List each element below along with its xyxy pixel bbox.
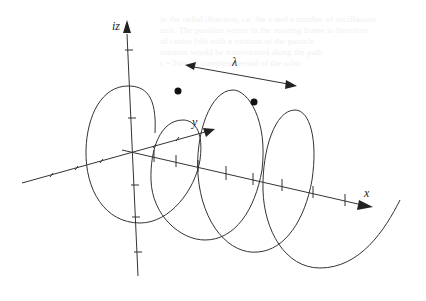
x-axis-label: x [364,187,369,199]
y-axis-label: y [192,116,197,128]
x-axis-arrowhead-icon [357,200,373,210]
wavelength-indicator [185,62,297,89]
z-axis-arrowhead-icon [123,20,131,33]
crest-marker-dot [251,99,258,106]
x-axis [122,150,373,210]
y-axis [22,128,215,183]
y-axis-arrowhead-icon [203,128,215,137]
diagram-canvas [0,0,426,301]
crest-marker-dot [175,88,182,95]
helix-figure: in the radial direction, i.e. the z and … [0,0,426,301]
wavelength-arrow-right-icon [285,80,297,89]
z-axis [123,20,142,276]
z-axis-label: iz [112,20,120,32]
wavelength-arrow-left-icon [185,62,196,70]
wavelength-label: λ [232,56,237,68]
